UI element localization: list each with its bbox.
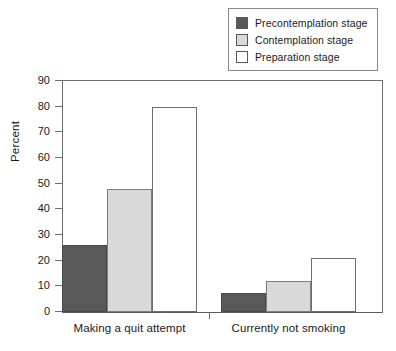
y-axis-tick-label: 0 [44, 305, 55, 317]
x-axis-category-label: Currently not smoking [232, 322, 346, 334]
legend-item-preparation: Preparation stage [236, 48, 368, 65]
y-axis-tick-label: 70 [38, 125, 55, 137]
y-axis-tick-label: 80 [38, 100, 55, 112]
bar [152, 107, 197, 312]
x-axis-category-label: Making a quit attempt [73, 322, 185, 334]
y-axis-tick-label: 10 [38, 279, 55, 291]
bar [107, 189, 152, 312]
x-axis-tick [209, 312, 210, 319]
plot-area [62, 80, 383, 313]
legend-item-precontemplation: Precontemplation stage [236, 14, 368, 31]
bar [266, 281, 311, 312]
legend-item-contemplation: Contemplation stage [236, 31, 368, 48]
legend-swatch-icon-precontemplation [236, 17, 248, 29]
legend-label-contemplation: Contemplation stage [255, 34, 353, 46]
bar [311, 258, 356, 312]
bar [62, 245, 107, 312]
y-axis-tick-label: 40 [38, 202, 55, 214]
legend-label-preparation: Preparation stage [255, 51, 340, 63]
bar-chart-figure: Precontemplation stage Contemplation sta… [0, 0, 396, 351]
bar [221, 293, 266, 312]
y-axis-tick-label: 60 [38, 151, 55, 163]
legend-swatch-icon-contemplation [236, 34, 248, 46]
y-axis-title: Percent [9, 121, 21, 162]
chart-legend: Precontemplation stage Contemplation sta… [228, 8, 378, 71]
y-axis-tick-label: 20 [38, 254, 55, 266]
legend-swatch-icon-preparation [236, 51, 248, 63]
y-axis-tick-label: 30 [38, 228, 55, 240]
legend-label-precontemplation: Precontemplation stage [255, 17, 368, 29]
y-axis-tick-label: 50 [38, 177, 55, 189]
y-axis-tick-label: 90 [38, 74, 55, 86]
